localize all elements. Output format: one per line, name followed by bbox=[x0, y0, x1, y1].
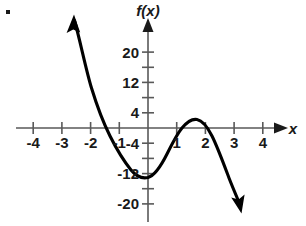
x-tick-label: -3 bbox=[55, 134, 68, 151]
x-axis-label: x bbox=[288, 120, 298, 137]
y-tick-label: 4 bbox=[131, 104, 140, 121]
y-axis bbox=[143, 18, 154, 222]
y-tick-label: 12 bbox=[122, 74, 139, 91]
y-tick-label: -20 bbox=[117, 195, 139, 212]
x-tick-label: 2 bbox=[201, 134, 209, 151]
x-tick-label: -2 bbox=[84, 134, 97, 151]
y-tick-label: -4 bbox=[126, 135, 140, 152]
x-tick-label: -4 bbox=[27, 134, 41, 151]
x-axis bbox=[16, 123, 288, 134]
graph-figure: -4 -3 -2 -1 1 2 3 4 20 12 4 -4 -12 -20 f… bbox=[0, 0, 306, 226]
function-graph-plot: -4 -3 -2 -1 1 2 3 4 20 12 4 -4 -12 -20 f… bbox=[0, 0, 306, 226]
x-tick-label: 1 bbox=[173, 134, 181, 151]
y-tick-label: -12 bbox=[117, 165, 139, 182]
y-tick-label: 20 bbox=[122, 44, 139, 61]
x-tick-label: -1 bbox=[113, 134, 126, 151]
x-tick-label: 4 bbox=[259, 134, 268, 151]
curve-path bbox=[67, 15, 245, 214]
y-axis-label: f(x) bbox=[136, 2, 159, 19]
x-tick-label: 3 bbox=[230, 134, 238, 151]
